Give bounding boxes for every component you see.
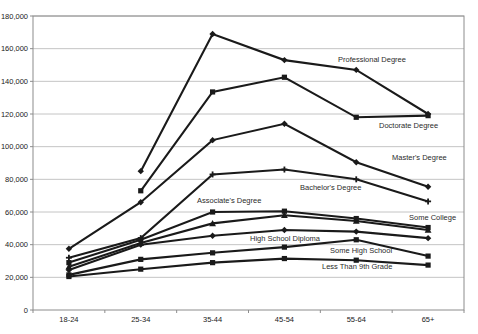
series-label: Master's Degree (392, 153, 447, 162)
x-axis-label: 65+ (422, 315, 435, 324)
y-axis-label: 180,000 (1, 12, 28, 21)
data-point-marker (138, 267, 143, 272)
series-label: Some College (409, 213, 456, 222)
x-axis-label: 55-64 (347, 315, 366, 324)
data-point-marker (138, 188, 143, 193)
data-point-marker (282, 245, 287, 250)
y-axis-label: 0 (24, 306, 28, 315)
series-line-doctorate-degree (141, 77, 428, 191)
series-label: High School Diploma (250, 234, 321, 243)
earnings-by-age-education-chart: 020,00040,00060,00080,000100,000120,0001… (0, 0, 478, 334)
series-label: Doctorate Degree (379, 121, 438, 130)
y-axis-label: 100,000 (1, 142, 28, 151)
data-point-marker (282, 75, 287, 80)
x-axis-label: 25-34 (131, 315, 150, 324)
data-point-marker (281, 227, 287, 233)
y-axis-label: 20,000 (5, 273, 28, 282)
data-point-marker (425, 183, 431, 189)
y-axis-label: 60,000 (5, 208, 28, 217)
data-point-marker (354, 115, 359, 120)
data-point-marker (425, 113, 430, 118)
data-point-marker (354, 237, 359, 242)
chart-canvas: 020,00040,00060,00080,000100,000120,0001… (0, 0, 478, 334)
series-label: Some High School (330, 246, 392, 255)
y-axis-label: 140,000 (1, 77, 28, 86)
data-point-marker (353, 228, 359, 234)
data-point-marker (210, 250, 215, 255)
data-point-marker (281, 57, 287, 63)
series-label: Less Than 9th Grade (322, 262, 392, 271)
x-axis-label: 18-24 (59, 315, 78, 324)
series-label: Associate's Degree (197, 196, 261, 205)
series-line-master-s-degree (69, 124, 428, 249)
data-point-marker (425, 235, 431, 241)
data-point-marker (210, 209, 215, 214)
y-axis-label: 40,000 (5, 240, 28, 249)
data-point-marker (282, 256, 287, 261)
series-label: Professional Degree (338, 55, 406, 64)
series-line-some-college (69, 215, 428, 266)
data-point-marker (425, 262, 430, 267)
x-axis-label: 45-54 (275, 315, 294, 324)
y-axis-label: 120,000 (1, 110, 28, 119)
data-point-marker (425, 254, 430, 259)
data-point-marker (138, 257, 143, 262)
data-point-marker (66, 274, 71, 279)
data-point-marker (210, 89, 215, 94)
y-axis-label: 160,000 (1, 44, 28, 53)
series-label: Bachelor's Degree (300, 183, 361, 192)
data-point-marker (210, 260, 215, 265)
data-point-marker (209, 232, 215, 238)
y-axis-label: 80,000 (5, 175, 28, 184)
x-axis-label: 35-44 (203, 315, 222, 324)
